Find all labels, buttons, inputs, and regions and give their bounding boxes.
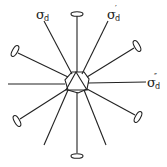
label-sigma-d: σ d [36,7,49,23]
mirror-plane-sigma-d-prime-lower [84,90,106,145]
mirror-plane-sigma-d-lower [44,90,68,145]
svg-text:d: d [155,82,160,91]
twofold-symbol-icon [133,111,144,124]
twofold-symbol-icon [12,115,23,128]
twofold-symbol-icon [132,40,143,53]
symmetry-diagram: σ d σ ′ d σ ″ d [0,0,167,167]
twofold-symbol-icon [10,45,21,58]
twofold-symbol-icon [71,12,83,17]
c2-axis-upper-left [18,53,68,77]
c2-axis-lower-left [20,89,67,119]
mirror-plane-sigma-d-upper [44,21,72,74]
label-sigma-d-double-prime: σ ″ d [147,73,160,91]
svg-text:″: ″ [154,73,157,82]
c2-axis-lower-right [87,89,135,115]
twofold-symbol-icon [71,154,83,159]
svg-text:′: ′ [115,5,117,14]
mirror-plane-sigma-d-double-prime-right [88,82,146,83]
svg-text:d: d [115,14,120,23]
svg-text:d: d [44,14,49,23]
c2-axis-upper-right [87,48,134,77]
label-sigma-d-prime: σ ′ d [107,5,120,23]
